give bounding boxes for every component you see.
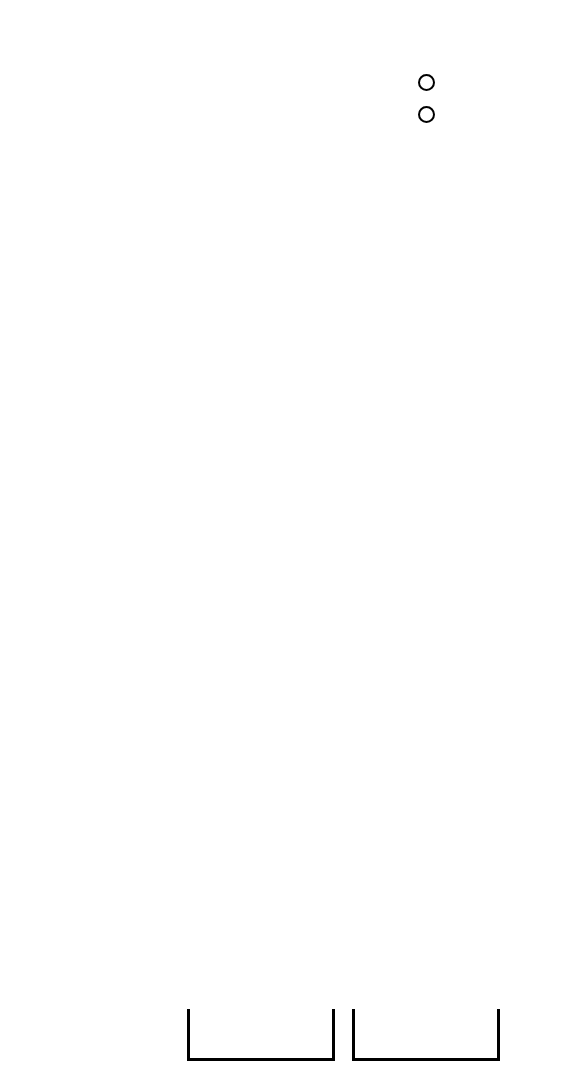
bracket-left-tick [187,1009,190,1061]
significance-bracket-jmd-simulation [352,1009,500,1061]
significance-bracket-control-jmd [187,1009,335,1061]
bracket-right-tick [497,1009,500,1061]
displacement-scatter-chart [0,0,586,1077]
plot-area [0,0,586,1077]
bracket-right-tick [332,1009,335,1061]
bracket-left-tick [352,1009,355,1061]
bracket-base [352,1058,500,1061]
bracket-base [187,1058,335,1061]
